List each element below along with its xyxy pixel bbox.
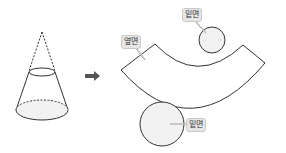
cone-figure	[16, 32, 68, 120]
label-bottom-base: 밑면	[186, 118, 206, 132]
label-top-base: 밑면	[182, 8, 202, 22]
side-surface-sector	[121, 44, 265, 108]
diagram-canvas	[0, 0, 286, 153]
top-base-circle	[199, 27, 225, 53]
leader-top-base	[196, 22, 206, 33]
label-side-surface: 옆면	[121, 35, 141, 49]
right-arrow-icon	[85, 71, 100, 81]
